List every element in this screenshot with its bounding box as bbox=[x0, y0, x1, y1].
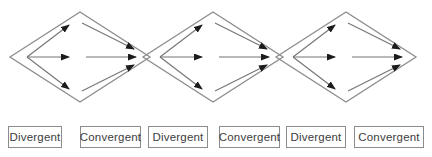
divergent-arrow-bottom bbox=[27, 57, 69, 89]
diamond-cycle-2 bbox=[143, 12, 283, 102]
divergent-arrow-bottom bbox=[160, 57, 202, 89]
convergent-arrows bbox=[215, 23, 269, 91]
label-divergent-3: Divergent bbox=[286, 126, 346, 148]
divergent-arrow-top bbox=[27, 25, 69, 57]
diamond-cycle-3 bbox=[276, 12, 416, 102]
diamond-cycles-diagram bbox=[0, 0, 432, 120]
divergent-arrow-top bbox=[160, 25, 202, 57]
label-convergent-3: Convergent bbox=[354, 126, 424, 148]
convergent-arrows bbox=[348, 23, 402, 91]
divergent-arrow-bottom bbox=[293, 57, 335, 89]
convergent-arrow-top bbox=[82, 23, 134, 49]
convergent-arrow-bottom bbox=[215, 65, 267, 91]
divergent-arrow-top bbox=[293, 25, 335, 57]
label-convergent-1: Convergent bbox=[80, 126, 141, 148]
label-divergent-2: Divergent bbox=[148, 126, 208, 148]
label-divergent-1: Divergent bbox=[8, 126, 62, 148]
convergent-arrow-bottom bbox=[348, 65, 400, 91]
diverge-converge-figure: Divergent Convergent Divergent Convergen… bbox=[0, 0, 432, 157]
divergent-arrows bbox=[293, 25, 335, 89]
convergent-arrow-top bbox=[215, 23, 267, 49]
divergent-arrows bbox=[27, 25, 69, 89]
convergent-arrow-bottom bbox=[82, 65, 134, 91]
diamond-cycle-1 bbox=[10, 12, 150, 102]
divergent-arrows bbox=[160, 25, 202, 89]
label-convergent-2: Convergent bbox=[219, 126, 280, 148]
convergent-arrows bbox=[82, 23, 136, 91]
convergent-arrow-top bbox=[348, 23, 400, 49]
